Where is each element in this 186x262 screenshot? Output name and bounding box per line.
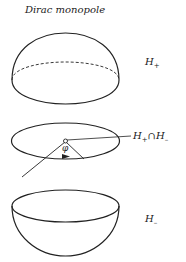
equator-disk bbox=[12, 123, 132, 177]
label-angle-phi: φ bbox=[62, 143, 68, 153]
upper-hemisphere bbox=[12, 33, 119, 104]
label-h-plus: H+ bbox=[145, 56, 160, 70]
label-h-minus: H– bbox=[145, 213, 157, 227]
lower-hemisphere bbox=[12, 190, 119, 256]
label-intersection: H+∩H– bbox=[133, 130, 168, 144]
arrow-icon bbox=[62, 154, 70, 159]
